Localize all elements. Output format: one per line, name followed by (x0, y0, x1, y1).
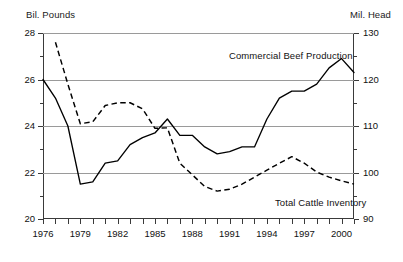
right-axis-tick (354, 173, 359, 174)
x-axis-tick (254, 219, 255, 224)
x-axis-tick (329, 219, 330, 224)
right-axis-minor-tick (354, 149, 357, 150)
annotation-total-cattle-inventory: Total Cattle Inventory (275, 197, 366, 208)
x-axis-tick-label: 1988 (182, 229, 203, 239)
left-axis-units-label: Bil. Pounds (26, 9, 75, 20)
x-axis-tick-label: 1979 (70, 229, 91, 239)
right-axis-minor-tick (354, 103, 357, 104)
left-axis-tick-label: 28 (7, 28, 35, 38)
x-axis-tick-label: 1985 (144, 229, 165, 239)
x-axis-tick (155, 219, 156, 224)
x-axis-tick-label: 1976 (32, 229, 53, 239)
left-axis-tick-label: 22 (7, 168, 35, 178)
x-axis-tick (205, 219, 206, 224)
x-axis-tick (242, 219, 243, 224)
x-axis-tick (342, 219, 343, 224)
x-axis-tick (279, 219, 280, 224)
chart-figure: Bil. Pounds Mil. Head 197619791982198519… (0, 0, 403, 262)
x-axis-tick (304, 219, 305, 224)
right-axis-tick-label: 120 (363, 75, 393, 85)
x-axis-tick (68, 219, 69, 224)
x-axis-tick (105, 219, 106, 224)
left-axis-tick-label: 26 (7, 75, 35, 85)
x-axis-tick-label: 1997 (294, 229, 315, 239)
x-axis-tick (267, 219, 268, 224)
right-axis-tick (354, 126, 359, 127)
right-axis-tick (354, 33, 359, 34)
x-axis-tick (43, 219, 44, 224)
x-axis-tick (80, 219, 81, 224)
x-axis-tick (93, 219, 94, 224)
x-axis-tick (167, 219, 168, 224)
annotation-commercial-beef-production: Commercial Beef Production (229, 50, 353, 61)
x-axis-tick (143, 219, 144, 224)
right-axis-minor-tick (354, 56, 357, 57)
right-axis-tick-label: 130 (363, 28, 393, 38)
x-axis-tick (292, 219, 293, 224)
plot-area: 197619791982198519881991199419972000 Com… (43, 33, 354, 219)
x-axis-tick (354, 219, 355, 224)
x-axis-tick (217, 219, 218, 224)
right-axis-tick-label: 110 (363, 121, 393, 131)
x-axis-tick (118, 219, 119, 224)
x-axis-tick (192, 219, 193, 224)
x-axis-tick (230, 219, 231, 224)
x-axis-tick-label: 1994 (256, 229, 277, 239)
x-axis-tick (55, 219, 56, 224)
x-axis-tick-label: 1991 (219, 229, 240, 239)
left-axis-tick-label: 20 (7, 214, 35, 224)
right-axis-tick-label: 90 (363, 214, 393, 224)
x-axis-tick (317, 219, 318, 224)
left-axis-tick-label: 24 (7, 121, 35, 131)
x-axis-tick (180, 219, 181, 224)
right-axis-units-label: Mil. Head (350, 9, 391, 20)
x-axis-tick (130, 219, 131, 224)
x-axis-tick-label: 2000 (331, 229, 352, 239)
right-axis-tick-label: 100 (363, 168, 393, 178)
x-axis-tick-label: 1982 (107, 229, 128, 239)
series-line-total-cattle-inventory (55, 42, 354, 191)
right-axis-tick (354, 80, 359, 81)
